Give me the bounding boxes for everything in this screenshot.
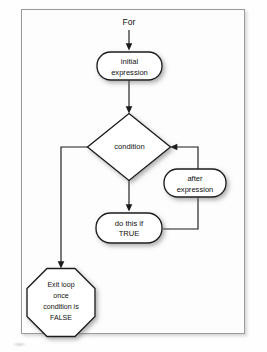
node-exit-loop: Exit loop once condition is FALSE: [27, 269, 95, 337]
node-after-expression: after expression: [164, 169, 226, 197]
node-do-this-if-true: do this if TRUE: [96, 213, 162, 243]
flowchart-canvas: For initial expression condition after e…: [0, 0, 267, 352]
do-this-if-true-line1: do this if: [115, 219, 144, 228]
flowchart-figure: For initial expression condition after e…: [0, 0, 267, 352]
node-condition: condition: [88, 114, 171, 181]
do-this-if-true-line2: TRUE: [119, 229, 140, 238]
after-expression-line1: after: [187, 174, 203, 183]
initial-expression-line2: expression: [111, 68, 148, 77]
exit-loop-line4: FALSE: [50, 314, 72, 322]
connector-condition-to-body: [126, 180, 133, 212]
connector-initial-to-condition: [126, 80, 133, 114]
node-initial-expression: initial expression: [97, 52, 162, 80]
exit-loop-line1: Exit loop: [47, 281, 74, 289]
connector-condition-to-exit: [58, 147, 88, 269]
after-expression-line2: expression: [177, 185, 214, 194]
initial-expression-line1: initial: [121, 57, 139, 66]
connector-start-to-initial: [126, 30, 133, 51]
exit-loop-line3: condition is: [43, 303, 79, 311]
do-this-if-true-shape: [96, 213, 162, 243]
scan-artifact: [12, 342, 27, 347]
condition-line1: condition: [114, 142, 144, 151]
start-label: For: [123, 17, 136, 27]
exit-loop-line2: once: [53, 292, 68, 300]
